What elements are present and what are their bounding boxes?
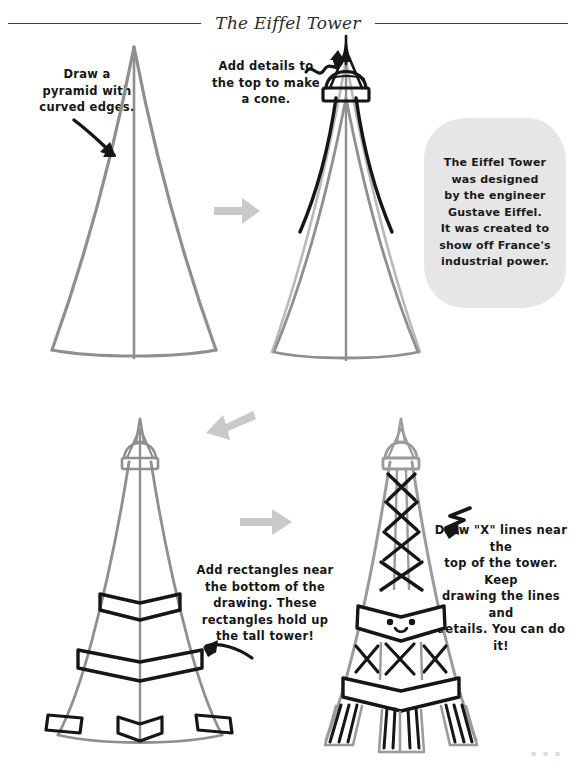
drawing-layer: [0, 0, 576, 770]
step-4-instruction: Draw "X" lines near the top of the tower…: [428, 522, 574, 654]
step-3-instruction: Add rectangles near the bottom of the dr…: [186, 562, 344, 645]
page-title: The Eiffel Tower: [213, 13, 362, 33]
curved-arrow-down-right-icon: [74, 120, 116, 157]
fact-box-text: The Eiffel Tower was designed by the eng…: [432, 155, 558, 271]
step-arrow-3-to-4: [240, 509, 292, 535]
face-eye-right: [409, 619, 415, 625]
step-2-instruction: Add details to the top to make a cone.: [198, 58, 334, 108]
title-rule-right: [375, 23, 568, 24]
face-smile: [395, 628, 407, 632]
step-1-instruction: Draw a pyramid with curved edges.: [24, 66, 150, 116]
face-eye-left: [387, 619, 393, 625]
corner-mark: ▪ ▪ ▪: [531, 749, 562, 758]
step-arrow-1-to-2: [214, 198, 260, 224]
tutorial-page: The Eiffel Tower The Eiffel Tower was de…: [0, 0, 576, 770]
title-rule-left: [8, 23, 201, 24]
page-title-bar: The Eiffel Tower: [0, 8, 576, 38]
step-arrow-2-to-3: [206, 411, 256, 440]
